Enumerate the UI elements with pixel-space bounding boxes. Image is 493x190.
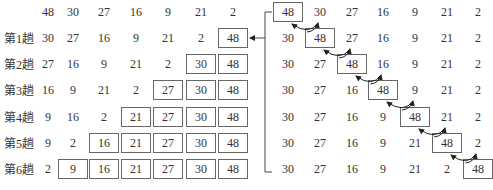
bracket-line: [265, 12, 272, 172]
connector-lines: [0, 0, 493, 190]
